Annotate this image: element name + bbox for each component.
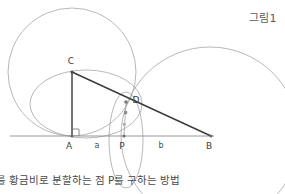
point-dot-b-icon xyxy=(209,134,212,137)
figure-title: 그림1 xyxy=(249,9,278,25)
tick-marker-lower-icon xyxy=(123,123,126,126)
figure-container: A B C D P a b 그림1 를 황금비로 분할하는 점 P를 구하는 방… xyxy=(0,0,285,194)
point-label-b: B xyxy=(206,141,212,151)
point-dot-d-icon xyxy=(124,100,128,104)
point-label-p: P xyxy=(119,141,125,151)
point-dot-a-icon xyxy=(70,134,73,137)
point-label-c: C xyxy=(68,56,74,66)
point-dot-c-icon xyxy=(70,70,73,73)
point-dot-p-icon xyxy=(122,134,125,137)
segment-cb xyxy=(72,72,211,136)
segment-label-b: b xyxy=(158,141,163,150)
geometry-canvas: A B C D P a b xyxy=(0,0,285,194)
figure-caption: 를 황금비로 분할하는 점 P를 구하는 방법 xyxy=(0,172,180,187)
point-label-d: D xyxy=(133,95,140,105)
circle-through-a-c-icon xyxy=(30,70,142,138)
point-label-a: A xyxy=(66,141,73,151)
segment-label-a: a xyxy=(95,141,100,150)
tick-marker-upper-icon xyxy=(124,111,127,114)
